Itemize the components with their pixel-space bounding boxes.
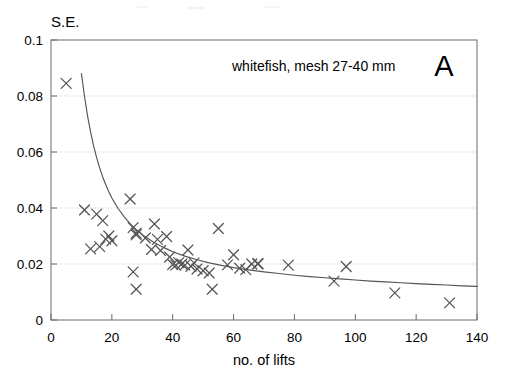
y-axis-tick-labels: 00.020.040.060.080.1 (17, 33, 44, 328)
data-point-marker (341, 262, 351, 272)
x-tick-label: 120 (405, 330, 428, 345)
x-tick-label: 140 (466, 330, 489, 345)
x-axis-ticks (51, 314, 477, 320)
data-point-marker (153, 234, 163, 244)
data-point-marker (125, 194, 135, 204)
data-point-marker (98, 216, 108, 226)
x-tick-label: 80 (287, 330, 302, 345)
data-point-marker (165, 252, 175, 262)
data-point-marker (213, 223, 223, 233)
data-point-marker (61, 78, 71, 88)
fitted-curve-path (81, 74, 477, 287)
data-point-marker (162, 232, 172, 242)
scan-artifact (265, 6, 279, 8)
y-axis-label: S.E. (51, 13, 79, 30)
data-point-marker (329, 276, 339, 286)
data-point-marker (229, 250, 239, 260)
x-tick-label: 20 (104, 330, 119, 345)
y-tick-label: 0.06 (17, 145, 43, 160)
data-point-marker (146, 244, 156, 254)
data-point-marker (445, 298, 455, 308)
panel-letter-label: A (434, 50, 454, 82)
y-tick-label: 0.1 (24, 33, 43, 48)
data-point-markers (61, 78, 454, 308)
x-tick-label: 40 (165, 330, 180, 345)
scatter-plot-figure: 020406080100120140 00.020.040.060.080.1 … (0, 0, 507, 376)
y-tick-label: 0 (35, 313, 43, 328)
data-point-marker (131, 284, 141, 294)
data-point-marker (95, 242, 105, 252)
scan-artifact (137, 6, 147, 8)
x-axis-tick-labels: 020406080100120140 (47, 330, 488, 345)
data-point-marker (253, 258, 263, 268)
axis-frame (51, 40, 477, 320)
x-tick-label: 60 (226, 330, 241, 345)
data-point-marker (149, 219, 159, 229)
x-tick-label: 100 (344, 330, 367, 345)
data-point-marker (207, 284, 217, 294)
gridlines (51, 96, 477, 264)
chart-canvas: 020406080100120140 00.020.040.060.080.1 … (0, 0, 507, 376)
x-tick-label: 0 (47, 330, 55, 345)
scan-artifact (188, 7, 204, 9)
data-point-marker (283, 260, 293, 270)
fitted-curve (81, 74, 477, 287)
data-point-marker (156, 246, 166, 256)
data-point-marker (107, 236, 117, 246)
data-point-marker (183, 245, 193, 255)
plot-border (51, 40, 477, 320)
data-point-marker (86, 244, 96, 254)
y-tick-label: 0.02 (17, 257, 43, 272)
data-point-marker (222, 260, 232, 270)
x-axis-label: no. of lifts (233, 352, 295, 368)
data-point-marker (79, 205, 89, 215)
plot-annotation: whitefish, mesh 27-40 mm (231, 58, 395, 74)
y-axis-ticks (51, 40, 57, 320)
data-point-marker (140, 233, 150, 243)
data-point-marker (390, 288, 400, 298)
y-tick-label: 0.08 (17, 89, 43, 104)
y-tick-label: 0.04 (17, 201, 44, 216)
data-point-marker (128, 267, 138, 277)
